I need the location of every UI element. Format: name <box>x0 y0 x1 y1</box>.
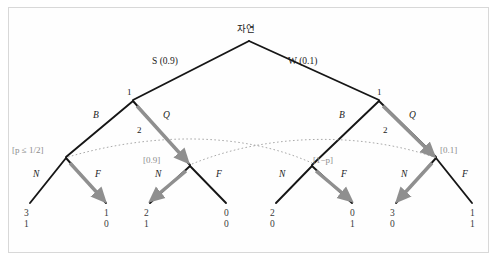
belief-label-1: [p ≤ 1/2] <box>12 146 43 155</box>
payoff-1-player2: 1 <box>24 219 29 230</box>
payoff-3: 2 1 <box>144 208 149 230</box>
payoff-8: 1 1 <box>470 208 475 230</box>
action-label-n-3: N <box>279 170 285 180</box>
action-label-f-1: F <box>95 170 101 180</box>
payoff-5-player1: 2 <box>270 208 275 219</box>
player2-node-label-left: 2 <box>137 126 142 135</box>
action-label-b-left: B <box>93 111 99 121</box>
belief-label-4: [0.1] <box>440 146 457 155</box>
payoff-8-player2: 1 <box>470 219 475 230</box>
root-chance-node-label: 자연 <box>237 24 255 34</box>
game-tree-canvas <box>0 0 497 261</box>
information-set-links <box>68 139 434 164</box>
player1-node-right: 1 <box>377 88 382 97</box>
payoff-6-player1: 0 <box>350 208 355 219</box>
action-label-n-1: N <box>33 170 39 180</box>
action-label-q-left: Q <box>163 111 170 121</box>
action-label-f-4: F <box>462 170 468 180</box>
chance-branch-label-s: S (0.9) <box>152 57 178 67</box>
action-label-f-3: F <box>341 170 347 180</box>
payoff-7-player2: 0 <box>390 219 395 230</box>
action-label-b-right: B <box>339 111 345 121</box>
payoff-5: 2 0 <box>270 208 275 230</box>
branch-W <box>249 41 379 100</box>
arrow-Q-right <box>383 106 430 152</box>
info-set-B <box>68 139 312 163</box>
chance-branch-label-w: W (0.1) <box>288 57 317 67</box>
payoff-5-player2: 0 <box>270 219 275 230</box>
payoff-6-player2: 1 <box>350 219 355 230</box>
payoff-4-player2: 0 <box>224 219 229 230</box>
action-label-n-4: N <box>401 170 407 180</box>
arrow-Q-left <box>137 106 184 158</box>
payoff-2: 1 0 <box>104 208 109 230</box>
action-label-f-2: F <box>216 170 222 180</box>
payoff-3-player2: 1 <box>144 219 149 230</box>
payoff-8-player1: 1 <box>470 208 475 219</box>
payoff-2-player1: 1 <box>104 208 109 219</box>
player2-node-label-right: 2 <box>383 126 388 135</box>
branch-F-4 <box>436 158 472 203</box>
payoff-4: 0 0 <box>224 208 229 230</box>
belief-label-3: [1−p] <box>313 156 333 165</box>
payoff-1-player1: 3 <box>24 208 29 219</box>
branch-N-1 <box>30 158 66 203</box>
player1-branches <box>66 101 436 165</box>
payoff-6: 0 1 <box>350 208 355 230</box>
action-label-q-right: Q <box>409 111 416 121</box>
payoff-1: 3 1 <box>24 208 29 230</box>
payoff-2-player2: 0 <box>104 219 109 230</box>
action-label-n-2: N <box>155 170 161 180</box>
player1-node-left: 1 <box>127 88 132 97</box>
chance-branches <box>133 41 379 100</box>
branch-S <box>133 41 249 100</box>
payoff-3-player1: 2 <box>144 208 149 219</box>
payoff-7: 3 0 <box>390 208 395 230</box>
equilibrium-arrows <box>70 106 432 197</box>
payoff-4-player1: 0 <box>224 208 229 219</box>
belief-label-2: [0.9] <box>143 156 160 165</box>
game-tree-figure: 자연 S (0.9) W (0.1) 1 1 B Q B Q 2 2 [p ≤ … <box>0 0 497 261</box>
player2-branches <box>30 158 472 203</box>
payoff-7-player1: 3 <box>390 208 395 219</box>
